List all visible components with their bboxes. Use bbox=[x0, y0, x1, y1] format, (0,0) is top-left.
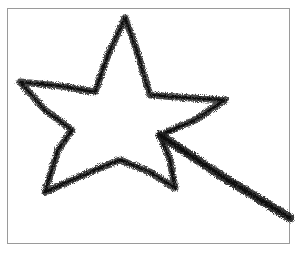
star-tail bbox=[160, 135, 290, 218]
star-outline bbox=[20, 18, 225, 192]
tinsel-star-image bbox=[0, 0, 299, 253]
